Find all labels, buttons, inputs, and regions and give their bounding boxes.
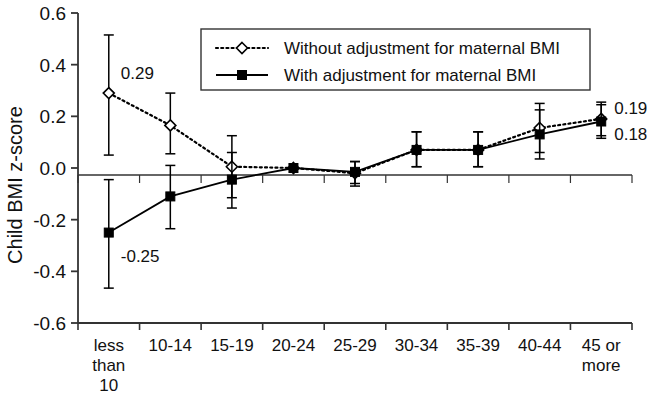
legend-item-label: Without adjustment for maternal BMI xyxy=(284,39,560,58)
x-axis-category-label: 15-19 xyxy=(210,336,253,355)
data-point-filled-square xyxy=(289,164,298,173)
x-axis-category-label: 40-44 xyxy=(518,336,561,355)
data-point-filled-square xyxy=(104,228,113,237)
y-axis-tick-label: -0.6 xyxy=(33,313,66,334)
chart-legend[interactable]: Without adjustment for maternal BMIWith … xyxy=(201,29,590,90)
chart-figure: Child BMI z-score 0.60.40.20.0-0.2-0.4-0… xyxy=(0,0,647,410)
y-axis-title: Child BMI z-score xyxy=(4,106,26,264)
data-point-label: 0.19 xyxy=(614,99,647,118)
data-point-filled-square xyxy=(535,130,544,139)
data-point-label: -0.25 xyxy=(121,247,160,266)
data-point-filled-square xyxy=(597,117,606,126)
x-axis-category-label: 25-29 xyxy=(333,336,376,355)
x-axis-category-label: 10 xyxy=(99,376,118,395)
x-axis-category-label: 30-34 xyxy=(395,336,438,355)
x-axis-category-label: 45 or xyxy=(582,336,621,355)
data-point-filled-square xyxy=(412,145,421,154)
y-axis-tick-label: 0.4 xyxy=(40,55,67,76)
x-axis-category-label: 20-24 xyxy=(272,336,315,355)
data-point-filled-square xyxy=(238,71,247,80)
data-point-filled-square xyxy=(351,167,360,176)
x-axis-category-label: 10-14 xyxy=(149,336,192,355)
x-axis-category-label: than xyxy=(92,356,125,375)
data-point-filled-square xyxy=(474,145,483,154)
x-axis-category-label: more xyxy=(582,356,621,375)
y-axis-tick-label: 0.6 xyxy=(40,3,66,24)
data-point-filled-square xyxy=(166,192,175,201)
data-point-filled-square xyxy=(227,175,236,184)
y-axis-tick-label: 0.0 xyxy=(40,158,66,179)
legend-item-label: With adjustment for maternal BMI xyxy=(284,66,536,85)
y-axis-tick-label: 0.2 xyxy=(40,106,66,127)
y-axis-tick-label: -0.4 xyxy=(33,261,66,282)
x-axis-category-label: less xyxy=(94,336,124,355)
x-axis-category-label: 35-39 xyxy=(456,336,499,355)
data-point-label: 0.18 xyxy=(614,125,647,144)
data-point-label: 0.29 xyxy=(121,64,154,83)
y-axis-tick-label: -0.2 xyxy=(33,210,66,231)
bmi-zscore-line-chart: Child BMI z-score 0.60.40.20.0-0.2-0.4-0… xyxy=(0,0,647,410)
